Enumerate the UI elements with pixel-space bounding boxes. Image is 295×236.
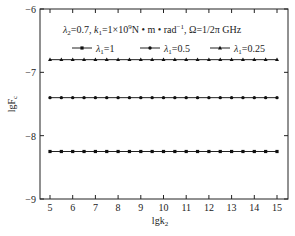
x-tick-label: 14 — [249, 202, 259, 213]
x-tick-label: 13 — [227, 202, 237, 213]
square-marker-icon — [264, 150, 267, 153]
y-tick-label: −8 — [25, 131, 36, 142]
circle-marker-icon — [71, 96, 74, 99]
chart: −6−7−8−9 56789101112131415 λ2=0.7, k1=1×… — [0, 0, 295, 236]
square-marker-icon — [48, 150, 51, 153]
legend-item-3: λ1=0.25 — [210, 43, 265, 56]
circle-marker-icon — [241, 96, 244, 99]
circle-marker-icon — [139, 96, 142, 99]
square-marker-icon — [253, 150, 256, 153]
circle-marker-icon — [94, 96, 97, 99]
circle-marker-icon — [230, 96, 233, 99]
x-tick-label: 7 — [93, 202, 98, 213]
circle-marker-icon — [253, 96, 256, 99]
circle-marker-icon — [264, 96, 267, 99]
square-marker-icon — [128, 150, 131, 153]
circle-marker-icon — [150, 96, 153, 99]
x-tick-label: 5 — [48, 202, 53, 213]
square-marker-icon — [275, 150, 278, 153]
circle-marker-icon — [219, 96, 222, 99]
x-axis-label: lgk2 — [152, 215, 169, 228]
circle-marker-icon — [275, 96, 278, 99]
series-2 — [48, 96, 278, 99]
series-group — [48, 57, 279, 153]
y-tick-label: −6 — [25, 4, 36, 15]
legend-item-1: λ1=1 — [72, 43, 114, 56]
circle-marker-icon — [105, 96, 108, 99]
circle-marker-icon — [128, 96, 131, 99]
x-tick-label: 15 — [272, 202, 282, 213]
legend-label: λ1=0.25 — [233, 43, 265, 56]
x-axis: 56789101112131415 — [48, 9, 283, 213]
y-axis-label: lgFc — [6, 96, 19, 112]
legend-label: λ1=0.5 — [163, 43, 190, 56]
circle-marker-icon — [196, 96, 199, 99]
circle-marker-icon — [116, 96, 119, 99]
circle-marker-icon — [48, 96, 51, 99]
circle-marker-icon — [185, 96, 188, 99]
y-tick-label: −7 — [25, 67, 36, 78]
legend-label: λ1=1 — [95, 43, 114, 56]
x-tick-label: 6 — [70, 202, 75, 213]
circle-marker-icon — [162, 96, 165, 99]
square-marker-icon — [105, 150, 108, 153]
square-marker-icon — [82, 150, 85, 153]
x-tick-label: 11 — [181, 202, 191, 213]
square-marker-icon — [71, 150, 74, 153]
plot-frame — [40, 9, 288, 199]
square-marker-icon — [139, 150, 142, 153]
square-marker-icon — [94, 150, 97, 153]
circle-marker-icon — [60, 96, 63, 99]
x-tick-label: 10 — [159, 202, 169, 213]
square-marker-icon — [162, 150, 165, 153]
legend-item-2: λ1=0.5 — [140, 43, 190, 56]
circle-marker-icon — [82, 96, 85, 99]
square-marker-icon — [196, 150, 199, 153]
square-marker-icon — [80, 46, 83, 49]
x-tick-label: 9 — [138, 202, 143, 213]
circle-marker-icon — [148, 46, 151, 49]
square-marker-icon — [117, 150, 120, 153]
x-tick-label: 12 — [204, 202, 214, 213]
legend: λ1=1λ1=0.5λ1=0.25 — [72, 43, 265, 56]
square-marker-icon — [173, 150, 176, 153]
x-tick-label: 8 — [116, 202, 121, 213]
series-1 — [48, 150, 278, 153]
y-tick-label: −9 — [25, 194, 36, 205]
square-marker-icon — [219, 150, 222, 153]
circle-marker-icon — [173, 96, 176, 99]
square-marker-icon — [207, 150, 210, 153]
series-3 — [48, 57, 279, 61]
square-marker-icon — [60, 150, 63, 153]
annotation-text: λ2=0.7, k1=1×109N • m • rad−1, Ω=1/2π GH… — [62, 23, 242, 37]
circle-marker-icon — [207, 96, 210, 99]
square-marker-icon — [230, 150, 233, 153]
square-marker-icon — [241, 150, 244, 153]
square-marker-icon — [151, 150, 154, 153]
square-marker-icon — [185, 150, 188, 153]
